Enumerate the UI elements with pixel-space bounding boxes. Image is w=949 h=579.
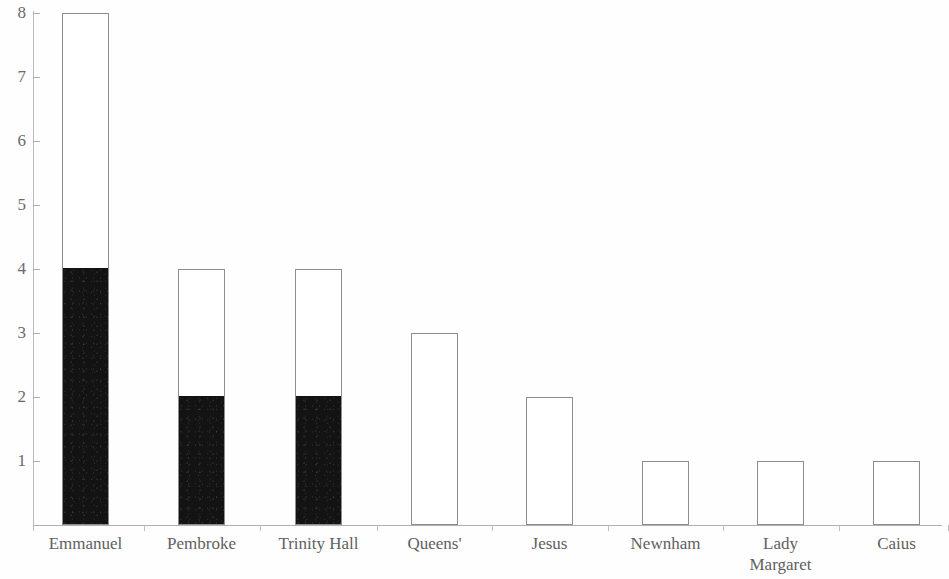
y-axis-tick [33, 461, 40, 462]
y-axis-label: 8 [0, 4, 26, 21]
bar [757, 461, 804, 525]
x-axis-tick [377, 525, 378, 531]
bar-chart: 12345678 EmmanuelPembrokeTrinity HallQue… [0, 0, 949, 579]
y-axis-label: 7 [0, 68, 26, 85]
bar [411, 333, 458, 525]
x-axis-tick [608, 525, 609, 531]
bar-segment-filled [179, 396, 224, 524]
y-axis-tick [33, 333, 40, 334]
y-axis-label: 5 [0, 196, 26, 213]
y-axis-label: 4 [0, 260, 26, 277]
y-axis-label: 2 [0, 388, 26, 405]
x-axis-tick [144, 525, 145, 531]
bar [178, 269, 225, 525]
x-axis-tick [33, 525, 34, 531]
x-axis-category-label: Caius [822, 533, 949, 554]
y-axis-tick [33, 13, 40, 14]
bar [642, 461, 689, 525]
x-axis-line [33, 525, 942, 526]
y-axis-label: 3 [0, 324, 26, 341]
y-axis-tick [33, 205, 40, 206]
bar [295, 269, 342, 525]
x-axis-tick [260, 525, 261, 531]
plot-area: 12345678 EmmanuelPembrokeTrinity HallQue… [0, 0, 949, 579]
y-axis-label: 1 [0, 452, 26, 469]
bar [873, 461, 920, 525]
bar [62, 13, 109, 525]
x-axis-tick [723, 525, 724, 531]
y-axis-tick [33, 397, 40, 398]
y-axis-tick [33, 77, 40, 78]
bar-segment-filled [296, 396, 341, 524]
y-axis-tick [33, 269, 40, 270]
x-axis-tick [839, 525, 840, 531]
bar [526, 397, 573, 525]
y-axis-tick [33, 525, 40, 526]
y-axis-tick [33, 141, 40, 142]
y-axis-label: 6 [0, 132, 26, 149]
x-axis-tick [492, 525, 493, 531]
bar-segment-filled [63, 268, 108, 524]
